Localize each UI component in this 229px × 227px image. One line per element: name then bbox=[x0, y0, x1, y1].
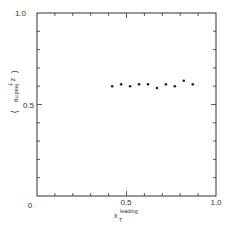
data-point bbox=[138, 83, 141, 86]
data-point bbox=[182, 79, 185, 82]
data-point bbox=[147, 83, 150, 86]
left-angle-bracket-icon: ⟨ bbox=[10, 70, 20, 74]
x-axis-label-sup: leading bbox=[120, 208, 138, 214]
plot-border bbox=[37, 13, 216, 196]
x-axis-label-main: x bbox=[114, 212, 118, 219]
data-point bbox=[165, 83, 168, 86]
y-axis-label: ⟨ z T leading ⟩ bbox=[7, 70, 20, 114]
y-axis-label-sup: leading bbox=[14, 84, 20, 102]
plot-frame bbox=[37, 13, 216, 196]
axis-ticks bbox=[37, 13, 216, 196]
x-tick-label-0: 0 bbox=[28, 201, 33, 210]
data-point bbox=[129, 85, 132, 88]
data-point bbox=[191, 83, 194, 86]
x-axis-label: x T leading bbox=[114, 208, 138, 223]
data-points bbox=[111, 79, 194, 89]
x-tick-label-1.0: 1.0 bbox=[210, 198, 222, 207]
data-point bbox=[156, 87, 159, 90]
y-axis-label-sub: T bbox=[7, 83, 13, 86]
data-point bbox=[111, 85, 114, 88]
y-tick-label-0.5: 0.5 bbox=[23, 101, 35, 110]
y-tick-label-1.0: 1.0 bbox=[15, 9, 27, 18]
y-axis-label-main: z bbox=[10, 78, 17, 82]
x-tick-label-0.5: 0.5 bbox=[120, 198, 132, 207]
data-point bbox=[120, 83, 123, 86]
x-axis-label-sub: T bbox=[119, 217, 122, 223]
data-point bbox=[174, 85, 177, 88]
scatter-plot: 1.0 0.5 0 0.5 1.0 x T leading ⟨ z T lead… bbox=[0, 0, 229, 227]
right-angle-bracket-icon: ⟩ bbox=[10, 110, 20, 114]
